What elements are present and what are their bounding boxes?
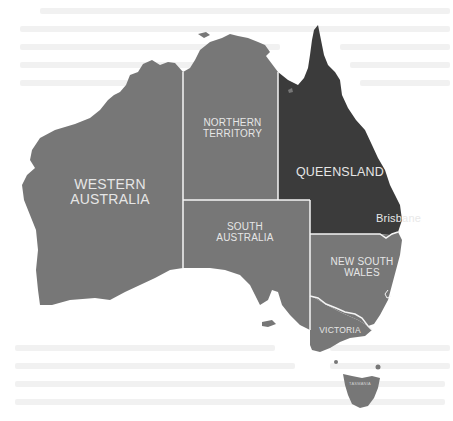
label-line: QUEENSLAND xyxy=(290,166,390,179)
label-line: AUSTRALIA xyxy=(205,233,285,244)
label-queensland: QUEENSLAND xyxy=(290,166,390,179)
island-king xyxy=(334,360,338,364)
island-melville xyxy=(198,32,210,38)
city-label-brisbane: Brisbane xyxy=(376,213,421,225)
label-tasmania: TASMANIA xyxy=(345,382,375,386)
label-line: VICTORIA xyxy=(315,326,365,335)
island-kangaroo xyxy=(262,320,276,327)
australia-map xyxy=(0,0,453,421)
region-south-australia[interactable] xyxy=(183,200,310,330)
label-victoria: VICTORIA xyxy=(315,326,365,335)
label-line: TERRITORY xyxy=(190,129,275,140)
label-northern-territory: NORTHERN TERRITORY xyxy=(190,118,275,139)
label-new-south-wales: NEW SOUTH WALES xyxy=(322,257,402,278)
label-line: WESTERN xyxy=(50,177,170,192)
island-flinders xyxy=(376,365,381,370)
label-line: NEW SOUTH xyxy=(322,257,402,268)
label-line: WALES xyxy=(322,268,402,279)
label-line: TASMANIA xyxy=(345,382,375,386)
label-line: AUSTRALIA xyxy=(50,192,170,207)
star-icon: ★ xyxy=(424,216,432,226)
label-western-australia: WESTERN AUSTRALIA xyxy=(50,177,170,206)
label-line: NORTHERN xyxy=(190,118,275,129)
label-line: SOUTH xyxy=(205,222,285,233)
label-south-australia: SOUTH AUSTRALIA xyxy=(205,222,285,243)
region-tasmania[interactable] xyxy=(343,374,380,408)
